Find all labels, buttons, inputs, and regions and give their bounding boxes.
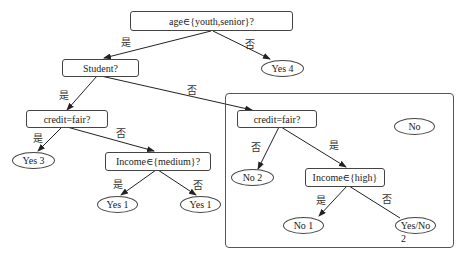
edge-label-credit-left-yes: 是 — [33, 130, 43, 145]
leaf-yes3-label: Yes 3 — [22, 155, 44, 166]
leaf-yes1-a: Yes 1 — [97, 196, 138, 213]
leaf-yes4: Yes 4 — [261, 60, 304, 77]
leaf-yesno-label: Yes/No — [401, 220, 431, 231]
edge-label-student-yes: 是 — [59, 87, 69, 102]
leaf-yes1-b-label: Yes 1 — [189, 199, 211, 210]
node-income-high: Income∈{high} — [305, 168, 385, 187]
node-income-medium: Income∈{medium}? — [105, 152, 211, 171]
leaf-yes3: Yes 3 — [12, 152, 55, 169]
leaf-yesno-subscript: 2 — [401, 233, 406, 244]
edge-credit-income-medium — [67, 127, 154, 151]
node-root-label: age∈{youth,senior}? — [169, 16, 254, 27]
leaf-no2-label: No 2 — [243, 172, 263, 183]
node-student: Student? — [62, 59, 139, 77]
edge-label-income-high-yes: 是 — [316, 192, 326, 207]
leaf-no2: No 2 — [231, 169, 274, 186]
edge-label-credit-right-yes: 是 — [329, 137, 339, 152]
node-credit-right: credit=fair? — [237, 110, 317, 128]
edge-label-income-medium-yes: 是 — [113, 176, 123, 191]
node-root: age∈{youth,senior}? — [130, 11, 293, 31]
node-credit-left-label: credit=fair? — [44, 114, 91, 125]
leaf-no1: No 1 — [283, 217, 324, 234]
edge-income-yes1b — [158, 170, 196, 195]
leaf-no-label: No — [408, 121, 420, 132]
node-credit-left: credit=fair? — [26, 110, 108, 128]
leaf-yesno: Yes/No — [395, 217, 436, 234]
leaf-no: No — [394, 118, 435, 135]
edge-label-income-high-no: 否 — [382, 191, 392, 206]
edge-label-root-yes: 是 — [121, 34, 131, 49]
edge-income-yes1a — [121, 170, 156, 195]
leaf-yes1-b: Yes 1 — [180, 196, 221, 213]
leaf-no1-label: No 1 — [294, 220, 314, 231]
edge-root-yes4 — [213, 31, 270, 59]
edge-label-credit-right-no: 否 — [251, 139, 261, 154]
edge-label-income-medium-no: 否 — [193, 177, 203, 192]
node-credit-right-label: credit=fair? — [254, 114, 301, 125]
leaf-yes4-label: Yes 4 — [271, 63, 293, 74]
leaf-yes1-a-label: Yes 1 — [106, 199, 128, 210]
edge-student-credit-left — [67, 76, 97, 110]
edge-label-root-no: 否 — [245, 36, 255, 51]
node-student-label: Student? — [83, 63, 118, 74]
edge-label-credit-left-no: 否 — [116, 125, 126, 140]
edge-label-student-no: 否 — [187, 82, 197, 97]
node-income-high-label: Income∈{high} — [313, 172, 378, 183]
node-income-medium-label: Income∈{medium}? — [116, 156, 200, 167]
